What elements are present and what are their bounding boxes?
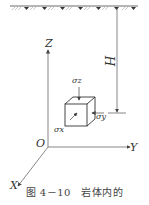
sigma-x-label: σx	[54, 126, 64, 134]
y-axis-label: Y	[130, 142, 137, 153]
sigma-y-label: σy	[96, 113, 106, 121]
origin-label: O	[36, 138, 45, 149]
stress-diagram	[0, 0, 149, 205]
coordinate-axes	[18, 50, 130, 186]
figure-caption: 图 4－10 岩体内的	[0, 184, 149, 199]
depth-label: H	[103, 56, 115, 66]
ground-surface	[10, 6, 138, 10]
sigma-z-label: σz	[72, 77, 82, 85]
z-axis-label: Z	[45, 38, 53, 49]
stress-element-cube	[65, 97, 95, 126]
